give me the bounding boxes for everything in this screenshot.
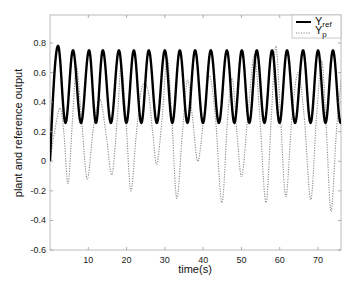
y-tick-label: 0.4 xyxy=(33,97,46,107)
plot-area: -0.6-0.4-0.200.20.40.60.8 10203040506070 xyxy=(30,15,341,265)
x-tick-label: 30 xyxy=(160,255,170,265)
x-axis-label: time(s) xyxy=(178,263,212,275)
y-tick-label: -0.4 xyxy=(30,215,46,225)
y-tick-label: -0.2 xyxy=(30,186,46,196)
line-chart: -0.6-0.4-0.200.20.40.60.8 10203040506070… xyxy=(0,0,359,293)
x-tick-label: 20 xyxy=(122,255,132,265)
x-tick-label: 60 xyxy=(275,255,285,265)
x-tick-label: 10 xyxy=(83,255,93,265)
y-tick-label: -0.6 xyxy=(30,245,46,255)
y-tick-label: 0 xyxy=(41,156,46,166)
y-tick-label: 0.2 xyxy=(33,127,46,137)
legend: Yref Yp xyxy=(292,15,341,39)
x-tick-label: 50 xyxy=(236,255,246,265)
y-tick-label: 0.8 xyxy=(33,38,46,48)
y-tick-label: 0.6 xyxy=(33,68,46,78)
x-tick-label: 70 xyxy=(313,255,323,265)
y-axis-label: plant and reference output xyxy=(12,69,24,197)
